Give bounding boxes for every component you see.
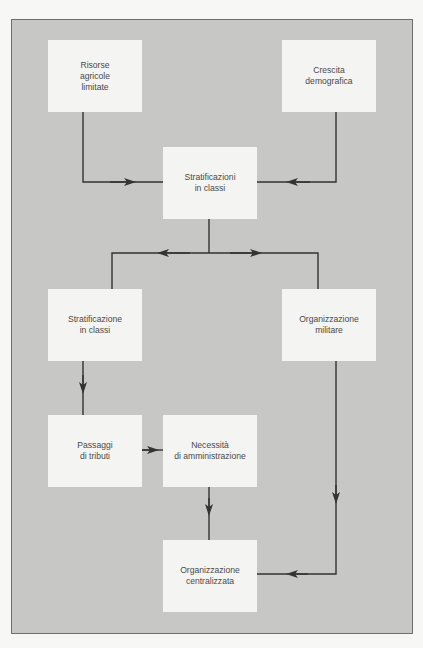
edge-stratificazioni-split — [112, 218, 318, 289]
node-label-line: Stratificazioni — [184, 172, 235, 183]
node-stratificazione-in-classi: Stratificazione in classi — [48, 289, 142, 361]
node-label-line: demografica — [305, 76, 352, 87]
node-label-line: militare — [299, 325, 359, 336]
node-organizzazione-centralizzata: Organizzazione centralizzata — [163, 540, 257, 612]
node-label-line: agricole — [80, 71, 110, 82]
node-risorse-agricole-limitate: Risorse agricole limitate — [48, 40, 142, 112]
node-stratificazioni-in-classi: Stratificazioni in classi — [163, 147, 257, 219]
node-label-line: limitate — [80, 82, 110, 93]
edge-crescita-stratificazioni — [256, 111, 336, 182]
node-necessita-di-amministrazione: Necessità di amministrazione — [163, 415, 257, 487]
node-label-line: centralizzata — [180, 576, 240, 587]
node-label-line: Passaggi — [77, 440, 112, 451]
node-label-line: Risorse — [80, 60, 110, 71]
node-label-line: di amministrazione — [174, 451, 246, 462]
node-label-line: di tributi — [77, 451, 112, 462]
node-label-line: Crescita — [305, 65, 352, 76]
edge-militare-centralizzata — [256, 361, 336, 574]
node-label-line: Stratificazione — [68, 314, 122, 325]
node-label-line: in classi — [184, 183, 235, 194]
node-label-line: in classi — [68, 325, 122, 336]
node-label-line: Organizzazione — [180, 565, 240, 576]
node-crescita-demografica: Crescita demografica — [282, 40, 376, 112]
edge-risorse-stratificazioni — [83, 111, 163, 182]
node-passaggi-di-tributi: Passaggi di tributi — [48, 415, 142, 487]
node-label-line: Organizzazione — [299, 314, 359, 325]
node-organizzazione-militare: Organizzazione militare — [282, 289, 376, 361]
node-label-line: Necessità — [174, 440, 246, 451]
